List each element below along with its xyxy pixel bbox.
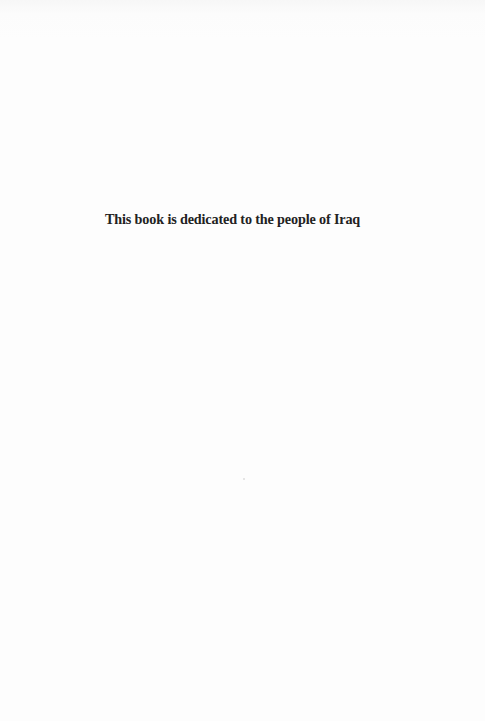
book-page: This book is dedicated to the people of …	[0, 0, 485, 721]
dedication-text: This book is dedicated to the people of …	[105, 211, 360, 227]
scan-artifact	[243, 478, 245, 480]
